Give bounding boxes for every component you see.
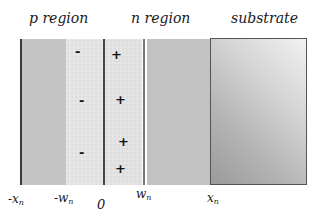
p-region-title: p region [29,11,88,25]
axis-label-zero: 0 [97,198,105,211]
negative-charge-icon: - [79,146,84,159]
p-region-bulk [22,39,66,185]
axis-label-wn: wn [136,188,151,202]
positive-charge-icon: + [115,93,126,106]
substrate-title: substrate [231,11,298,25]
substrate-block [210,38,307,185]
axis-label-neg-wn: -wn [54,192,73,206]
junction-line-zero [103,39,105,185]
positive-charge-icon: + [118,135,129,148]
boundary-line-neg-xn [20,39,22,185]
n-region-bulk [147,39,210,185]
depletion-region-p-side [66,39,103,185]
axis-label-neg-xn: -xn [8,193,24,207]
n-region-title: n region [131,11,190,25]
negative-charge-icon: - [75,45,80,58]
axis-label-xn: xn [207,192,219,206]
boundary-line-wn [143,39,145,185]
negative-charge-icon: - [79,94,84,107]
positive-charge-icon: + [115,162,126,175]
positive-charge-icon: + [111,48,122,61]
